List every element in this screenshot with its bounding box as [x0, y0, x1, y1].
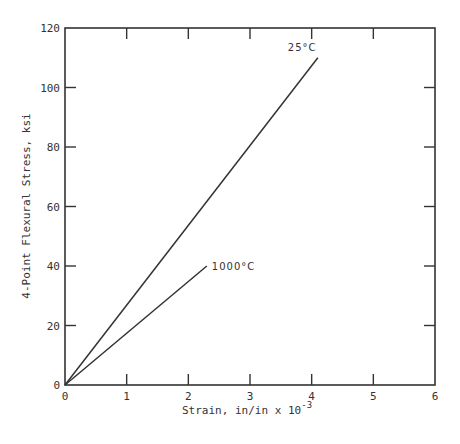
- x-axis-label-text: Strain, in/in x 10: [182, 404, 301, 417]
- plot-border: [65, 28, 435, 385]
- plot-frame: [65, 28, 435, 385]
- series-labels: 25°C1000°C: [212, 42, 317, 272]
- x-tick-label: 6: [432, 390, 439, 403]
- x-axis-label-exponent: -3: [301, 400, 312, 410]
- y-tick-label: 120: [40, 22, 60, 35]
- y-tick-label: 100: [40, 82, 60, 95]
- series-line-1: [65, 266, 207, 385]
- axis-ticks: [65, 28, 435, 385]
- y-tick-label: 80: [47, 141, 60, 154]
- y-axis-label: 4-Point Flexural Stress, ksi: [20, 113, 33, 298]
- x-tick-label: 2: [185, 390, 192, 403]
- x-tick-label: 1: [123, 390, 130, 403]
- series-label-0: 25°C: [288, 42, 317, 53]
- y-tick-label: 40: [47, 260, 60, 273]
- stress-strain-chart: 0123456 020406080100120 25°C1000°C Strai…: [0, 0, 460, 444]
- x-tick-labels: 0123456: [62, 390, 439, 403]
- x-tick-label: 3: [247, 390, 254, 403]
- y-tick-label: 60: [47, 201, 60, 214]
- series-line-0: [65, 58, 318, 385]
- y-tick-labels: 020406080100120: [40, 22, 60, 392]
- x-tick-label: 0: [62, 390, 69, 403]
- y-tick-label: 20: [47, 320, 60, 333]
- series-label-1: 1000°C: [212, 261, 255, 272]
- x-tick-label: 5: [370, 390, 377, 403]
- y-tick-label: 0: [53, 379, 60, 392]
- data-series: [65, 58, 318, 385]
